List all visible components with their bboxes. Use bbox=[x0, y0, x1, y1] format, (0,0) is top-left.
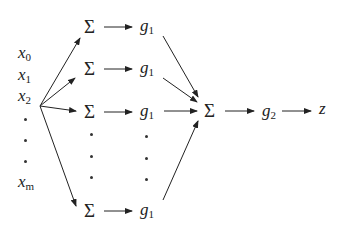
ellipsis-dot bbox=[24, 160, 27, 163]
hidden-sum-3: Σ bbox=[84, 102, 95, 121]
ellipsis-dot bbox=[145, 135, 148, 138]
output-sum: Σ bbox=[204, 101, 215, 120]
output-z: z bbox=[319, 100, 326, 117]
hidden-sum-2: Σ bbox=[84, 59, 95, 78]
output-activation: g2 bbox=[262, 102, 276, 121]
ellipsis-dot bbox=[90, 176, 93, 179]
ellipsis-dot bbox=[24, 118, 27, 121]
hidden-activation-1: g1 bbox=[140, 17, 154, 36]
ellipsis-dot bbox=[90, 133, 93, 136]
ellipsis-dot bbox=[145, 157, 148, 160]
ellipsis-dot bbox=[90, 155, 93, 158]
hidden-sum-n: Σ bbox=[84, 201, 95, 220]
hidden-activation-3: g1 bbox=[140, 102, 154, 121]
hidden-activation-2: g1 bbox=[140, 59, 154, 78]
input-x1: x1 bbox=[18, 66, 31, 85]
input-x2: x2 bbox=[18, 87, 31, 106]
connection-arrows bbox=[0, 0, 342, 238]
ellipsis-dot bbox=[145, 178, 148, 181]
hidden-sum-1: Σ bbox=[84, 17, 95, 36]
hidden-activation-n: g1 bbox=[140, 201, 154, 220]
input-xm: xm bbox=[18, 173, 34, 192]
ellipsis-dot bbox=[24, 139, 27, 142]
input-x0: x0 bbox=[18, 44, 31, 63]
